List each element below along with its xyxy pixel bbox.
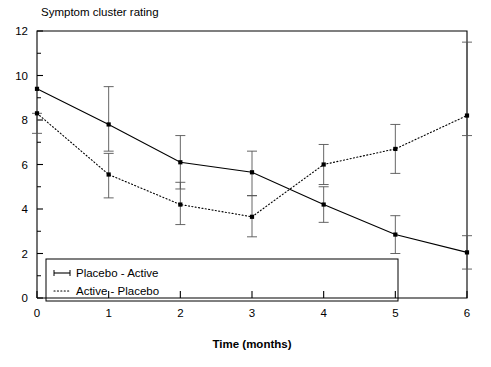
x-tick-label: 5: [392, 307, 398, 319]
data-point-marker: [250, 170, 254, 174]
legend-label-1: Active - Placebo: [76, 285, 159, 297]
y-tick-label: 2: [22, 248, 28, 260]
x-tick-label: 4: [320, 307, 327, 319]
x-tick-label: 6: [464, 307, 470, 319]
y-tick-label: 4: [22, 203, 29, 215]
chart-title: Symptom cluster rating: [41, 6, 159, 18]
y-tick-label: 8: [22, 114, 28, 126]
data-point-marker: [393, 147, 397, 151]
data-point-marker: [35, 87, 39, 91]
x-tick-label: 2: [177, 307, 183, 319]
figure-container: Symptom cluster rating 024681012 0123456…: [0, 0, 491, 367]
x-tick-label: 0: [34, 307, 40, 319]
x-axis-label: Time (months): [212, 338, 291, 350]
legend-line-sample-solid: [54, 270, 70, 276]
data-point-marker: [393, 232, 397, 236]
chart-svg: Symptom cluster rating 024681012 0123456…: [0, 0, 491, 367]
data-point-marker: [35, 111, 39, 115]
data-point-marker: [178, 160, 182, 164]
legend-entry-active-placebo: Active - Placebo: [54, 285, 159, 297]
data-point-marker: [465, 113, 469, 117]
data-point-marker: [250, 215, 254, 219]
data-point-marker: [322, 162, 326, 166]
x-tick-label: 3: [249, 307, 255, 319]
data-point-marker: [178, 202, 182, 206]
y-tick-label: 6: [22, 159, 28, 171]
x-tick-label: 1: [105, 307, 111, 319]
y-tick-label: 12: [15, 25, 28, 37]
error-bars: [32, 42, 472, 269]
legend-entry-placebo-active: Placebo - Active: [54, 267, 158, 279]
y-tick-label: 10: [15, 70, 28, 82]
legend: Placebo - Active Active - Placebo: [46, 259, 398, 301]
y-tick-label: 0: [22, 292, 28, 304]
data-point-marker: [322, 202, 326, 206]
data-point-marker: [465, 250, 469, 254]
data-point-marker: [107, 172, 111, 176]
data-point-marker: [107, 122, 111, 126]
legend-label-0: Placebo - Active: [76, 267, 158, 279]
y-axis: 024681012: [15, 25, 43, 304]
